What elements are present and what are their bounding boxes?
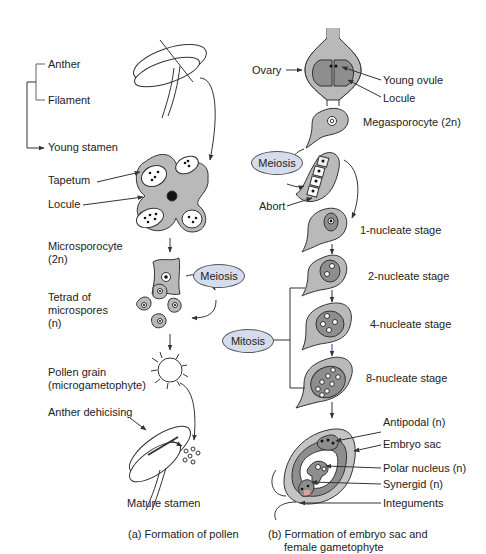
caption-panel-b: (b) Formation of embryo sac and female g… (268, 528, 428, 554)
mature-embryo-sac (272, 429, 381, 520)
label-2-nucleate: 2-nucleate stage (368, 270, 449, 283)
stamen-parts-bracket (27, 64, 45, 148)
label-integuments: Integuments (383, 497, 444, 510)
anther-cross-section (83, 153, 208, 252)
label-locule-b: Locule (383, 92, 415, 105)
mitosis-bracket (270, 288, 305, 388)
label-pollen-grain: Pollen grain (microgametophyte) (48, 366, 146, 392)
label-1-nucleate: 1-nucleate stage (360, 224, 441, 237)
label-abort: Abort (259, 200, 285, 213)
megasporocyte-cell (293, 108, 348, 162)
two-nucleate-embryo-sac (302, 255, 347, 302)
label-anther-dehiscing: Anther dehicising (48, 406, 132, 419)
label-locule-a: Locule (48, 198, 80, 211)
process-mitosis: Mitosis (222, 329, 274, 353)
caption-b-line2: female gametophyte (268, 541, 428, 554)
microsporocyte-line2: (2n) (48, 253, 123, 266)
pollen-line2: (microgametophyte) (48, 379, 146, 392)
four-nucleate-embryo-sac (302, 303, 351, 356)
process-meiosis-a: Meiosis (193, 264, 245, 288)
pollen-grain (151, 352, 195, 440)
microsporocyte-line1: Microsporocyte (48, 240, 123, 253)
pollen-line1: Pollen grain (48, 366, 146, 379)
tetrad-line3: (n) (48, 317, 108, 330)
label-tetrad: Tetrad of microspores (n) (48, 291, 108, 330)
label-filament: Filament (48, 94, 90, 107)
label-4-nucleate: 4-nucleate stage (370, 318, 451, 331)
label-ovary: Ovary (252, 64, 281, 77)
label-polar-nucleus: Polar nucleus (n) (383, 462, 466, 475)
tetrad-line1: Tetrad of (48, 291, 108, 304)
label-young-stamen: Young stamen (48, 141, 118, 154)
label-tapetum: Tapetum (48, 174, 90, 187)
label-8-nucleate: 8-nucleate stage (366, 372, 447, 385)
label-embryo-sac: Embryo sac (383, 438, 441, 451)
one-nucleate-embryo-sac (302, 208, 347, 254)
label-anther: Anther (48, 58, 80, 71)
label-antipodal: Antipodal (n) (383, 416, 445, 429)
label-young-ovule: Young ovule (383, 74, 443, 87)
young-stamen-drawing (129, 37, 215, 160)
label-mature-stamen: Mature stamen (127, 497, 200, 510)
tetrad-line2: microspores (48, 304, 108, 317)
ovary-drawing (286, 28, 381, 106)
caption-b-line1: (b) Formation of embryo sac and (268, 528, 428, 541)
label-megasporocyte: Megasporocyte (2n) (363, 116, 461, 129)
process-meiosis-b: Meiosis (251, 151, 303, 175)
label-microsporocyte: Microsporocyte (2n) (48, 240, 123, 266)
caption-panel-a: (a) Formation of pollen (128, 528, 239, 541)
label-synergid: Synergid (n) (383, 478, 443, 491)
released-pollen (183, 447, 200, 464)
